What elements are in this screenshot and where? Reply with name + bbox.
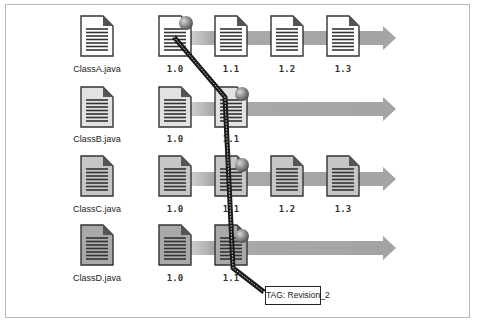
revision-icon-classd-1-0 bbox=[158, 224, 192, 266]
version-label: 1.2 bbox=[270, 204, 304, 214]
version-label: 1.1 bbox=[214, 273, 248, 283]
revision-icon-classb-1-0 bbox=[158, 86, 192, 128]
file-icon-classc bbox=[80, 155, 114, 197]
revision-icon-classa-1-3 bbox=[326, 15, 360, 57]
timeline-arrow-classb bbox=[172, 102, 396, 116]
version-label: 1.0 bbox=[158, 64, 192, 74]
version-label: 1.0 bbox=[158, 134, 192, 144]
revision-icon-classc-1-0 bbox=[158, 155, 192, 197]
version-label: 1.1 bbox=[214, 64, 248, 74]
revision-icon-classc-1-1 bbox=[214, 155, 248, 197]
file-label-classa: ClassA.java bbox=[67, 64, 127, 74]
file-icon-classd bbox=[80, 224, 114, 266]
version-label: 1.0 bbox=[158, 204, 192, 214]
file-label-classb: ClassB.java bbox=[67, 134, 127, 144]
revision-icon-classd-1-1 bbox=[214, 224, 248, 266]
revision-icon-classa-1-2 bbox=[270, 15, 304, 57]
revision-icon-classc-1-2 bbox=[270, 155, 304, 197]
timeline-arrow-classd bbox=[172, 241, 396, 255]
version-label: 1.1 bbox=[214, 134, 248, 144]
revision-icon-classa-1-1 bbox=[214, 15, 248, 57]
tag-label-box: TAG: Revision_2 bbox=[265, 286, 321, 305]
version-label: 1.0 bbox=[158, 273, 192, 283]
version-label: 1.3 bbox=[326, 204, 360, 214]
revision-icon-classa-1-0 bbox=[158, 15, 192, 57]
version-label: 1.1 bbox=[214, 204, 248, 214]
file-label-classd: ClassD.java bbox=[67, 273, 127, 283]
revision-icon-classc-1-3 bbox=[326, 155, 360, 197]
file-icon-classa bbox=[80, 15, 114, 57]
file-label-classc: ClassC.java bbox=[67, 204, 127, 214]
file-icon-classb bbox=[80, 86, 114, 128]
version-label: 1.2 bbox=[270, 64, 304, 74]
revision-icon-classb-1-1 bbox=[214, 86, 248, 128]
version-label: 1.3 bbox=[326, 64, 360, 74]
